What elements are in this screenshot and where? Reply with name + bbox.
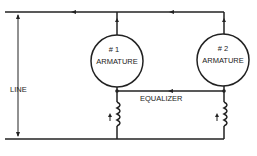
armature2-label: ARMATURE xyxy=(202,56,244,65)
dimension-arrow-down xyxy=(16,132,20,137)
dimension-arrow-up xyxy=(16,14,20,19)
equalizer-label: EQUALIZER xyxy=(140,94,183,103)
armature2-number-label: # 2 xyxy=(218,44,228,53)
current-arrow-armature1 xyxy=(115,18,119,22)
junction-dot-1 xyxy=(115,89,119,93)
current-arrow-top-left xyxy=(71,10,76,14)
current-arrow-equalizer xyxy=(168,89,173,93)
armature1-number-label: # 1 xyxy=(109,45,119,54)
circuit-diagram: # 1 ARMATURE # 2 ARMATURE LINE EQUALIZER xyxy=(0,0,257,156)
series-field-coil-2 xyxy=(224,102,227,126)
junction-dot-2 xyxy=(222,89,226,93)
line-label: LINE xyxy=(10,85,27,94)
field-arrow-1-shaft xyxy=(110,116,111,121)
field-arrow-2-shaft xyxy=(217,116,218,121)
compound-generators-parallel-diagram: # 1 ARMATURE # 2 ARMATURE LINE EQUALIZER xyxy=(0,0,257,156)
current-arrow-armature2 xyxy=(222,18,226,22)
armature1-label: ARMATURE xyxy=(96,57,138,66)
series-field-coil-1 xyxy=(117,102,120,126)
current-arrow-top-right xyxy=(169,10,174,14)
